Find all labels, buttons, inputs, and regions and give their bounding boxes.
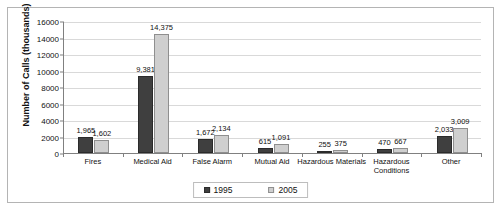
y-axis-tick-label: 10000 — [37, 67, 59, 76]
y-axis-tick-label: 2000 — [41, 133, 59, 142]
bar-1995-medical-aid — [138, 76, 153, 153]
plot-area: 0200040006000800010000120001400016000 1,… — [63, 22, 481, 154]
bar-value-label: 2,033 — [435, 125, 454, 134]
bar-1995-hazardous-conditions — [377, 149, 392, 153]
x-axis-labels: FiresMedical AidFalse AlarmMutual AidHaz… — [63, 157, 481, 183]
bar-value-label: 2,134 — [212, 124, 231, 133]
bar-1995-mutual-aid — [258, 148, 273, 153]
bar-2005-mutual-aid — [274, 144, 289, 153]
y-axis-tick-label: 8000 — [41, 84, 59, 93]
bar-1995-false-alarm — [198, 139, 213, 153]
bar-value-label: 667 — [394, 137, 407, 146]
y-axis-title: Number of Calls (thousands) — [21, 0, 31, 135]
bar-1995-hazardous-materials — [317, 151, 332, 153]
legend-label-1995: 1995 — [214, 185, 233, 195]
bar-1995-other — [437, 136, 452, 153]
x-axis-tick-mark — [481, 153, 482, 157]
chart-container: Number of Calls (thousands) 020004000600… — [7, 7, 494, 203]
bar-2005-hazardous-conditions — [393, 148, 408, 154]
y-axis-tick-label: 4000 — [41, 117, 59, 126]
bar-2005-false-alarm — [214, 135, 229, 153]
legend-item-1995: 1995 — [204, 185, 233, 195]
bar-value-label: 9,381 — [136, 65, 155, 74]
bar-value-label: 3,009 — [451, 117, 470, 126]
y-axis-tick-label: 6000 — [41, 100, 59, 109]
legend-item-2005: 2005 — [269, 185, 298, 195]
bar-2005-other — [453, 128, 468, 153]
bar-value-label: 1,602 — [92, 129, 111, 138]
x-axis-label-other: Other — [416, 157, 486, 166]
y-axis-tick-label: 14000 — [37, 34, 59, 43]
legend-swatch-2005-icon — [269, 187, 275, 193]
bars-layer: 1,9651,6029,38114,3751,6722,1346151,0912… — [64, 22, 481, 153]
chart-legend: 1995 2005 — [193, 182, 309, 198]
y-axis-tick-label: 16000 — [37, 18, 59, 27]
bar-1995-fires — [78, 137, 93, 153]
bar-value-label: 615 — [259, 137, 272, 146]
plot-wrapper: 0200040006000800010000120001400016000 1,… — [63, 22, 481, 154]
bar-2005-medical-aid — [154, 34, 169, 153]
bar-2005-fires — [94, 140, 109, 153]
bar-value-label: 14,375 — [150, 23, 173, 32]
legend-swatch-1995-icon — [204, 187, 210, 193]
legend-label-2005: 2005 — [279, 185, 298, 195]
bar-value-label: 255 — [318, 140, 331, 149]
y-axis-tick-label: 12000 — [37, 51, 59, 60]
bar-value-label: 375 — [334, 139, 347, 148]
bar-value-label: 470 — [378, 138, 391, 147]
bar-value-label: 1,091 — [272, 133, 291, 142]
bar-2005-hazardous-materials — [333, 150, 348, 153]
